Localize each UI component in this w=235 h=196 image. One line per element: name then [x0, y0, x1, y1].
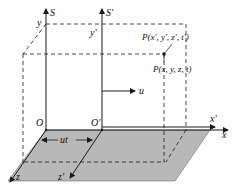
origin-o-dot	[45, 129, 47, 131]
origin-o-prime-label: O'	[91, 117, 101, 128]
origin-o-prime-dot	[101, 129, 103, 131]
ut-label: ut	[60, 134, 68, 145]
point-s-label: P(x, y, z, t)	[152, 64, 192, 74]
origin-o-label: O	[36, 117, 43, 128]
velocity-label: u	[139, 85, 144, 96]
z-axis-label: z	[15, 171, 20, 182]
z-prime-axis-label: z'	[57, 171, 65, 182]
y-axis-label: y	[36, 17, 42, 28]
frame-s-prime-label: S'	[106, 7, 114, 18]
x-axis-label: x	[221, 129, 227, 140]
y-prime-axis-label: y'	[89, 27, 97, 38]
x-prime-axis-label: x'	[209, 113, 217, 124]
reference-frames-diagram: S S' y y' P(x', y', z', t') P(x, y, z, t…	[0, 0, 235, 196]
xz-plane	[8, 130, 210, 181]
point-p-pointer	[164, 44, 172, 54]
frame-s-label: S	[50, 7, 55, 18]
point-s-prime-label: P(x', y', z', t')	[141, 32, 189, 42]
